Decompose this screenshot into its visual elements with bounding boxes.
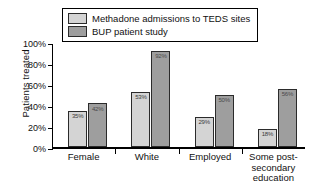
bar-value-label: 42% — [89, 106, 106, 113]
bar: 92% — [151, 51, 170, 148]
y-tick-mark — [48, 86, 53, 87]
bar-value-label: 35% — [69, 113, 86, 120]
y-axis-tick-labels: 100%80%60%40%20%0% — [12, 0, 46, 196]
y-tick-label: 40% — [12, 103, 46, 112]
bar-value-label: 92% — [152, 53, 169, 60]
x-category-label-line: Some post- — [242, 152, 305, 163]
bar-group: 35%42% — [68, 42, 107, 147]
x-category-label: Some post-secondaryeducation — [242, 152, 305, 184]
bar-value-label: 50% — [216, 97, 233, 104]
chart-legend: Methadone admissions to TEDS sitesBUP pa… — [62, 8, 258, 42]
chart-figure: Patients treated 100%80%60%40%20%0% 35%4… — [0, 0, 321, 196]
legend-label: BUP patient study — [92, 26, 168, 37]
bar-group: 18%56% — [258, 42, 297, 147]
bar-value-label: 53% — [132, 94, 149, 101]
plot-area: 35%42%53%92%29%50%18%56% — [52, 44, 305, 149]
y-tick-label: 0% — [12, 145, 46, 154]
x-category-label: Employed — [179, 152, 242, 163]
y-tick-mark — [48, 149, 53, 150]
medium-gray-swatch — [68, 26, 87, 37]
x-category-label-line: Female — [52, 152, 115, 163]
y-tick-label: 20% — [12, 124, 46, 133]
y-tick-mark — [48, 107, 53, 108]
bar-value-label: 18% — [259, 131, 276, 138]
bar-group: 29%50% — [195, 42, 234, 147]
bar: 18% — [258, 129, 277, 148]
bar: 35% — [68, 111, 87, 148]
legend-item: BUP patient study — [68, 25, 250, 38]
bar: 53% — [131, 92, 150, 148]
light-gray-swatch — [68, 13, 87, 24]
x-category-label: White — [115, 152, 178, 163]
y-tick-mark — [48, 128, 53, 129]
y-tick-mark — [48, 65, 53, 66]
bar: 50% — [215, 95, 234, 148]
y-tick-label: 100% — [12, 40, 46, 49]
y-tick-mark — [48, 44, 53, 45]
y-tick-label: 60% — [12, 82, 46, 91]
legend-item: Methadone admissions to TEDS sites — [68, 12, 250, 25]
bar-group: 53%92% — [131, 42, 170, 147]
x-category-label-line: White — [115, 152, 178, 163]
bar: 42% — [88, 103, 107, 147]
y-tick-label: 80% — [12, 61, 46, 70]
bar: 29% — [195, 117, 214, 147]
bar: 56% — [278, 89, 297, 148]
x-category-label: Female — [52, 152, 115, 163]
y-axis-line — [52, 44, 53, 149]
bar-value-label: 29% — [196, 119, 213, 126]
bar-value-label: 56% — [279, 91, 296, 98]
legend-label: Methadone admissions to TEDS sites — [92, 13, 250, 24]
x-category-label-line: Employed — [179, 152, 242, 163]
x-category-label-line: education — [242, 173, 305, 184]
